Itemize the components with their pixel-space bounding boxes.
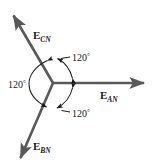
label-ebn: EBN (33, 140, 51, 155)
degree-symbol-left-icon: ° (23, 79, 26, 87)
angle-arc-bottom (57, 88, 73, 108)
label-angle-bottom-value: 120 (72, 108, 87, 119)
label-ean: EAN (100, 89, 118, 104)
label-angle-left: 120° (8, 79, 26, 90)
degree-symbol-top-icon: ° (87, 52, 90, 60)
phasor-diagram-canvas: EAN ECN EBN 120° 120° 120° (0, 0, 155, 167)
label-angle-bottom: 120° (72, 108, 90, 119)
degree-symbol-bottom-icon: ° (87, 108, 90, 116)
label-ecn-subscript: CN (40, 35, 51, 44)
leader-line-bottom (62, 111, 71, 113)
label-angle-top-value: 120 (72, 52, 87, 63)
vector-ecn (14, 16, 54, 84)
label-ebn-symbol: E (33, 140, 40, 152)
angle-arc-top (58, 59, 73, 79)
phasor-diagram: EAN ECN EBN 120° 120° 120° (0, 0, 155, 167)
label-ean-subscript: AN (106, 95, 118, 104)
label-ebn-subscript: BN (39, 146, 51, 155)
label-ecn: ECN (33, 29, 51, 44)
label-ean-symbol: E (100, 89, 107, 101)
label-angle-left-value: 120 (8, 79, 23, 90)
label-ecn-symbol: E (33, 29, 40, 41)
label-angle-top: 120° (72, 52, 90, 63)
leader-line-top (61, 57, 70, 59)
